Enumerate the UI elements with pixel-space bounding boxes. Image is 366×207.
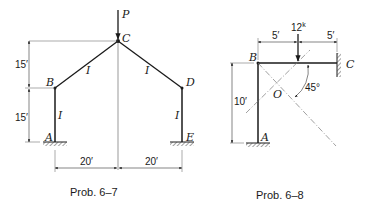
member-label-ab: I — [57, 109, 63, 122]
load-label-12k: 12k — [291, 21, 306, 33]
node-label-a: A — [44, 131, 53, 144]
member-label-de: I — [174, 109, 180, 122]
caption-prob-6-7: Prob. 6–7 — [70, 186, 118, 198]
structural-diagrams: P C B D A E I I I I 15′ 15′ 20′ 20′ Prob… — [0, 0, 366, 207]
frame-prob-6-7 — [25, 10, 194, 172]
node-label-e: E — [185, 131, 194, 144]
node-label-a: A — [260, 131, 269, 144]
load-label-p: P — [121, 8, 130, 21]
node-label-b: B — [45, 76, 54, 89]
angle-label: 45° — [305, 82, 320, 93]
member-cd — [118, 41, 182, 88]
construction-line-diagonal — [258, 63, 336, 146]
caption-prob-6-8: Prob. 6–8 — [256, 189, 304, 201]
frame-prob-6-8 — [230, 34, 341, 147]
dim-upper-height: 15′ — [15, 59, 28, 70]
node-label-d: D — [185, 76, 195, 89]
fixed-support-c — [337, 53, 341, 77]
dim-left-span: 5′ — [272, 30, 280, 41]
dim-lower-height: 15′ — [15, 112, 28, 123]
node-label-b: B — [248, 51, 257, 64]
member-label-cd: I — [144, 64, 150, 77]
member-label-bc: I — [85, 64, 91, 77]
dim-left-span: 20′ — [80, 156, 93, 167]
dim-right-span: 20′ — [145, 156, 158, 167]
node-label-o: O — [273, 88, 282, 101]
node-label-c: C — [122, 32, 131, 45]
node-label-c: C — [346, 58, 355, 71]
dim-height: 10′ — [234, 96, 247, 107]
dim-right-span: 5′ — [327, 30, 335, 41]
